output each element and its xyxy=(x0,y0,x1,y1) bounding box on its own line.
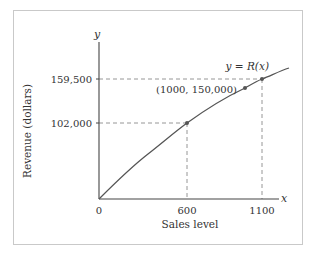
y-axis-symbol: y xyxy=(93,28,101,41)
x-tick-label-1100: 1100 xyxy=(249,205,274,216)
x-tick-label-0: 0 xyxy=(96,205,102,216)
revenue-chart: y x y = R(x) (1000, 150,000) 159,500 102… xyxy=(0,0,318,259)
x-axis-symbol: x xyxy=(281,192,288,205)
y-tick-label-102000: 102,000 xyxy=(51,118,92,129)
x-axis-title: Sales level xyxy=(162,218,219,230)
point-1100 xyxy=(260,77,264,81)
point-600 xyxy=(185,121,189,125)
point-label-1000: (1000, 150,000) xyxy=(156,84,237,95)
point-1000 xyxy=(243,86,247,90)
curve-label: y = R(x) xyxy=(225,60,269,72)
y-tick-label-159500: 159,500 xyxy=(51,74,92,85)
y-axis-title: Revenue (dollars) xyxy=(21,84,33,178)
guide-lines xyxy=(99,79,262,199)
x-tick-label-600: 600 xyxy=(177,205,196,216)
